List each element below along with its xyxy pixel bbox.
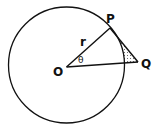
- label-Q: Q: [141, 57, 151, 71]
- circle-tangent-diagram: P Q O r θ: [0, 0, 160, 130]
- radius-OP: [67, 28, 111, 67]
- label-r: r: [80, 35, 86, 49]
- label-theta: θ: [78, 55, 84, 65]
- label-O: O: [53, 65, 63, 79]
- label-P: P: [106, 12, 115, 26]
